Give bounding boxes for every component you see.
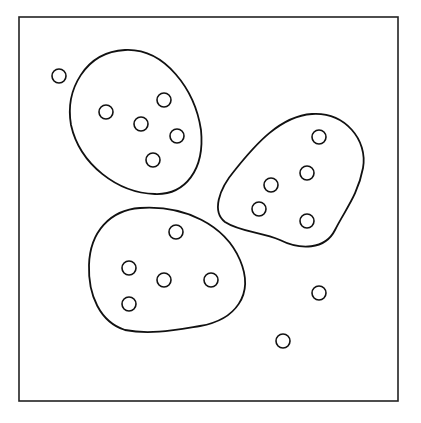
data-point (122, 297, 136, 311)
data-point (157, 93, 171, 107)
frame-border (19, 17, 398, 401)
data-point (264, 178, 278, 192)
outlier-point (276, 334, 290, 348)
data-point (134, 117, 148, 131)
outlier-point (312, 286, 326, 300)
data-point (204, 273, 218, 287)
data-point (122, 261, 136, 275)
data-point (157, 273, 171, 287)
data-point (146, 153, 160, 167)
data-point (300, 166, 314, 180)
cluster-3-points (122, 225, 218, 311)
cluster-2-points (252, 130, 326, 228)
data-point (300, 214, 314, 228)
cluster-3-boundary (89, 208, 245, 332)
data-point (170, 129, 184, 143)
data-point (252, 202, 266, 216)
outlier-point (52, 69, 66, 83)
outlier-points (52, 69, 326, 348)
data-point (99, 105, 113, 119)
data-point (169, 225, 183, 239)
cluster-1-points (99, 93, 184, 167)
data-point (312, 130, 326, 144)
cluster-2-boundary (218, 114, 364, 247)
cluster-diagram (0, 0, 421, 423)
